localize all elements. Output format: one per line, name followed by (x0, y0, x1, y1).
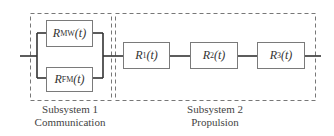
block-r2: R2(t) (190, 42, 238, 69)
subsystem1-name: Communication (20, 116, 120, 129)
subsystem1-label: Subsystem 1 Communication (20, 103, 120, 129)
subsystem2-name: Propulsion (165, 116, 265, 129)
block-r-fm: RFM(t) (46, 67, 93, 92)
subsystem2-label: Subsystem 2 Propulsion (165, 103, 265, 129)
subsystem2-title: Subsystem 2 (165, 103, 265, 116)
subsystem1-title: Subsystem 1 (20, 103, 120, 116)
block-r-mw: RMW(t) (46, 20, 93, 47)
block-r3: R3(t) (257, 42, 305, 69)
block-r1: R1(t) (123, 42, 170, 69)
